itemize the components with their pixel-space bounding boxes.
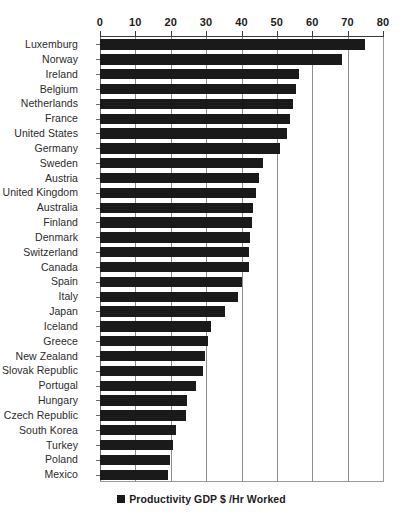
bar-row: Denmark [100,230,383,245]
bar [100,173,259,183]
bar-row: Czech Republic [100,408,383,423]
bar-row: New Zealand [100,349,383,364]
bar-row: United States [100,126,383,141]
category-label: Turkey [46,438,78,453]
category-label: Mexico [44,467,78,482]
category-label: Australia [37,200,78,215]
bar-row: Germany [100,141,383,156]
bar-row: Spain [100,274,383,289]
bar-row: Belgium [100,82,383,97]
category-label: Iceland [44,319,78,334]
bar-row: Finland [100,215,383,230]
bar [100,128,287,138]
bar-row: Ireland [100,67,383,82]
bar [100,69,299,79]
x-axis-tick-label: 80 [377,16,390,28]
bar [100,395,187,405]
bar-row: Austria [100,171,383,186]
legend-label: Productivity GDP $ /Hr Worked [129,493,286,505]
bar [100,247,249,257]
bar [100,381,196,391]
category-label: Ireland [46,67,78,82]
category-label: Japan [49,304,78,319]
bar-row: Canada [100,260,383,275]
bar-row: Mexico [100,467,383,482]
category-label: France [45,111,78,126]
bar [100,54,342,64]
category-label: Italy [58,289,78,304]
bar [100,366,203,376]
category-label: Denmark [35,230,78,245]
x-axis-tick-label: 30 [200,16,213,28]
bar [100,84,296,94]
plot-right-border [383,37,384,482]
bar [100,262,249,272]
category-label: Luxemburg [25,37,78,52]
bar-row: Japan [100,304,383,319]
bar [100,440,173,450]
category-label: United States [14,126,78,141]
bar [100,143,280,153]
chart-legend: Productivity GDP $ /Hr Worked [0,493,403,505]
x-axis-tick-label: 70 [341,16,354,28]
category-label: Switzerland [23,245,78,260]
x-axis-tick-label: 10 [129,16,142,28]
bar-row: South Korea [100,423,383,438]
category-label: Portugal [38,378,78,393]
category-label: Poland [45,452,78,467]
bar-row: Italy [100,289,383,304]
bar [100,114,290,124]
bar [100,336,208,346]
bar-row: United Kingdom [100,185,383,200]
productivity-bar-chart: 01020304050607080 LuxemburgNorwayIreland… [0,0,403,514]
category-label: Norway [42,52,78,67]
legend-swatch-icon [117,495,125,503]
bar-row: Australia [100,200,383,215]
bar-row: Slovak Republic [100,363,383,378]
x-axis-tick-label: 50 [271,16,284,28]
bar [100,39,365,49]
bar [100,321,211,331]
bar-row: Netherlands [100,96,383,111]
bar [100,232,250,242]
bar-row: Switzerland [100,245,383,260]
plot-area: LuxemburgNorwayIrelandBelgiumNetherlands… [100,37,383,482]
bar-row: Turkey [100,438,383,453]
bar-row: Greece [100,334,383,349]
bar [100,158,263,168]
category-label: United Kingdom [3,185,78,200]
bar [100,277,242,287]
bar [100,425,176,435]
bar-row: Iceland [100,319,383,334]
x-axis-tick-label: 0 [97,16,103,28]
bar-row: Luxemburg [100,37,383,52]
x-axis-tick-label: 20 [164,16,177,28]
category-label: Germany [34,141,78,156]
category-label: Austria [45,171,78,186]
category-label: Hungary [38,393,78,408]
bar [100,410,186,420]
bar [100,306,225,316]
bar [100,203,253,213]
category-label: Canada [41,260,78,275]
bar-row: Portugal [100,378,383,393]
category-label: New Zealand [16,349,78,364]
bar-row: Hungary [100,393,383,408]
category-label: Czech Republic [4,408,78,423]
bar [100,217,252,227]
bar-row: Poland [100,452,383,467]
category-label: Sweden [40,156,78,171]
category-label: Netherlands [21,96,78,111]
bar [100,470,168,480]
bar-row: Norway [100,52,383,67]
bar [100,188,256,198]
bar [100,292,238,302]
category-label: Slovak Republic [2,363,78,378]
bar [100,351,205,361]
category-label: Finland [43,215,78,230]
bar-row: Sweden [100,156,383,171]
category-label: Belgium [40,82,78,97]
x-axis-tick [383,31,384,37]
category-label: South Korea [19,423,78,438]
category-label: Greece [43,334,78,349]
